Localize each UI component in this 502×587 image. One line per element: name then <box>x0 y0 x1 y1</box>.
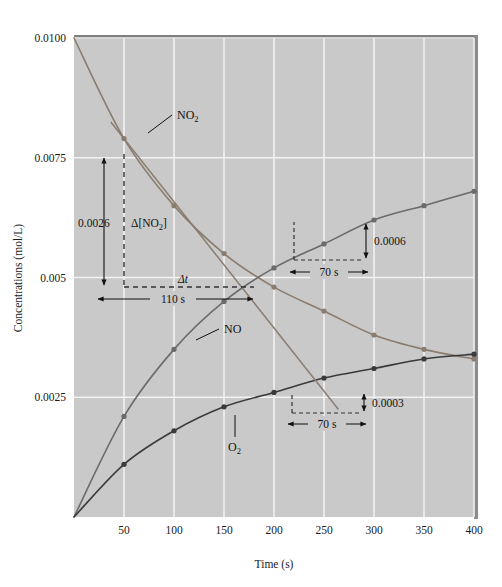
data-point-NO2-200 <box>271 284 276 289</box>
data-point-O2-200 <box>271 390 276 395</box>
data-point-NO-200 <box>271 265 276 270</box>
x-tick-label-400: 400 <box>465 524 483 536</box>
data-point-NO2-250 <box>321 308 326 313</box>
data-point-NO-50 <box>121 414 126 419</box>
rate-no-value-label: 0.0006 <box>374 235 406 247</box>
data-point-O2-350 <box>421 356 426 361</box>
delta-no2-value-label: 0.0026 <box>78 217 110 229</box>
y-axis-title: Concentrations (mol/L) <box>12 224 25 332</box>
delta-t-symbol-label: Δt <box>177 273 189 285</box>
data-point-NO-150 <box>221 299 226 304</box>
x-tick-label-150: 150 <box>215 524 233 536</box>
data-point-NO2-300 <box>371 332 376 337</box>
y-tick-label-0.0025: 0.0025 <box>34 391 66 403</box>
data-point-O2-150 <box>221 404 226 409</box>
x-tick-label-200: 200 <box>265 524 283 536</box>
y-tick-label-0.0075: 0.0075 <box>34 152 66 164</box>
series-label-no: NO <box>224 322 242 336</box>
delta-t-value-label: 110 s <box>161 293 186 305</box>
y-tick-label-0.0100: 0.0100 <box>34 32 66 44</box>
data-point-NO2-400 <box>471 356 476 361</box>
x-tick-label-350: 350 <box>415 524 433 536</box>
data-point-O2-300 <box>371 366 376 371</box>
chart-canvas: 50100150200250300350400 0.01000.00750.00… <box>0 0 502 587</box>
plot-area <box>74 35 478 519</box>
rate-no-time-label: 70 s <box>320 266 339 278</box>
data-point-NO-300 <box>371 217 376 222</box>
rate-o2-value-label: 0.0003 <box>372 397 404 409</box>
data-point-O2-100 <box>171 428 176 433</box>
data-point-NO-100 <box>171 347 176 352</box>
data-point-NO2-150 <box>221 251 226 256</box>
data-point-O2-50 <box>121 462 126 467</box>
rate-o2-time-label: 70 s <box>318 418 337 430</box>
x-tick-label-300: 300 <box>365 524 383 536</box>
data-point-NO2-350 <box>421 347 426 352</box>
x-tick-label-250: 250 <box>315 524 333 536</box>
data-point-O2-250 <box>321 375 326 380</box>
kinetics-concentration-chart: 50100150200250300350400 0.01000.00750.00… <box>0 0 502 587</box>
data-point-NO-250 <box>321 241 326 246</box>
x-axis-title: Time (s) <box>255 558 294 571</box>
y-tick-label-0.005: 0.005 <box>40 272 66 284</box>
data-point-NO-350 <box>421 203 426 208</box>
x-tick-label-50: 50 <box>118 524 130 536</box>
data-point-NO-400 <box>471 189 476 194</box>
data-point-O2-400 <box>471 352 476 357</box>
x-tick-label-100: 100 <box>165 524 183 536</box>
